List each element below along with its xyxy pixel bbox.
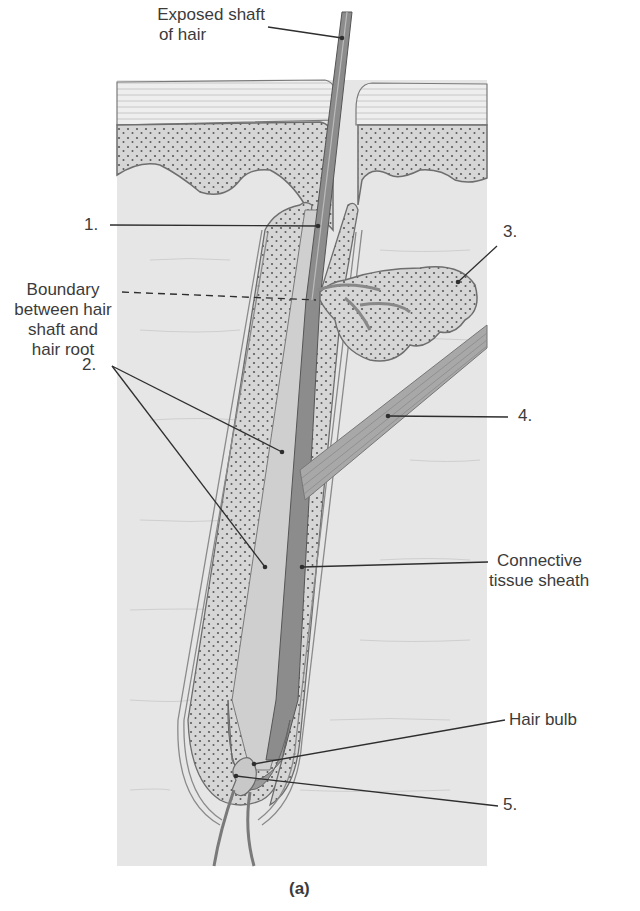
label-3: 3. xyxy=(503,222,517,242)
hair-follicle-diagram: Exposed shaft of hair 1. Boundary betwee… xyxy=(0,0,640,911)
label-connective-tissue-sheath: Connective tissue sheath xyxy=(489,551,589,591)
label-line: between hair xyxy=(0,300,126,320)
label-line: shaft and xyxy=(0,320,126,340)
label-line: hair root xyxy=(0,340,126,360)
diagram-illustration xyxy=(0,0,640,911)
stratum-corneum-right xyxy=(356,83,487,125)
label-exposed-shaft: Exposed shaft of hair xyxy=(120,5,265,45)
label-boundary: Boundary between hair shaft and hair roo… xyxy=(0,280,126,360)
label-hair-bulb: Hair bulb xyxy=(509,710,577,730)
label-5: 5. xyxy=(503,795,517,815)
label-line: of hair xyxy=(120,25,265,45)
figure-caption: (a) xyxy=(289,879,310,899)
label-4: 4. xyxy=(518,406,532,426)
label-line: tissue sheath xyxy=(489,571,589,591)
label-1: 1. xyxy=(84,215,98,235)
label-line: Boundary xyxy=(0,280,126,300)
leader-exposed-shaft xyxy=(268,27,342,38)
label-2: 2. xyxy=(82,355,96,375)
label-line: Exposed shaft xyxy=(120,5,265,25)
label-line: Connective xyxy=(489,551,589,571)
stratum-corneum xyxy=(117,80,338,125)
